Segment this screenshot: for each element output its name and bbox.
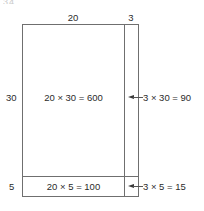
annotation-3x30-label: 3 × 30 = 90: [143, 92, 191, 103]
annotation-3x5-label: 3 × 5 = 15: [143, 181, 186, 192]
cell-20x5: 20 × 5 = 100: [23, 181, 124, 192]
clipped-top-text: 34: [3, 0, 17, 4]
left-label-30: 30: [6, 92, 17, 103]
annotation-3x30: 3 × 30 = 90: [128, 92, 191, 103]
arrow-left-icon: [128, 93, 143, 102]
area-model-diagram: 34 20 3 30 5 20 × 30 = 600 20 × 5 = 100 …: [0, 0, 204, 211]
vertical-divider: [124, 24, 125, 197]
top-label-3: 3: [118, 12, 144, 23]
rect-bottom-edge: [22, 196, 139, 197]
horizontal-divider: [22, 176, 139, 177]
annotation-3x5: 3 × 5 = 15: [128, 181, 186, 192]
rect-top-edge: [22, 24, 139, 25]
top-label-20: 20: [58, 12, 88, 23]
rect-left-edge: [22, 24, 23, 197]
left-label-5: 5: [9, 181, 14, 192]
rect-right-edge: [138, 24, 139, 197]
cell-20x30: 20 × 30 = 600: [23, 92, 124, 103]
arrow-left-icon: [128, 182, 143, 191]
